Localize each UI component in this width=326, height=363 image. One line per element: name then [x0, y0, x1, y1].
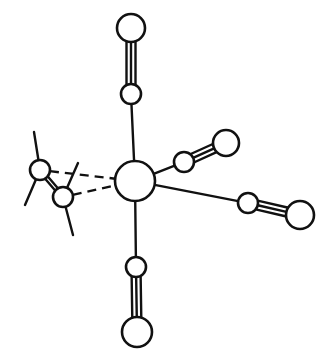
atoms-layer	[30, 14, 314, 347]
carbon-atom	[174, 152, 194, 172]
carbon-atom	[121, 84, 141, 104]
oxygen-atom	[122, 317, 152, 347]
oxygen-atom	[213, 130, 239, 156]
ethylene-carbon-atom	[30, 160, 50, 180]
carbon-oxygen-triple-bond	[141, 277, 142, 317]
ethylene-carbon-atom	[53, 187, 73, 207]
metal-carbon-bond	[135, 201, 136, 257]
metal-carbon-bond	[154, 166, 175, 174]
oxygen-atom	[117, 14, 145, 42]
carbon-oxygen-triple-bond	[191, 144, 212, 154]
metal-carbon-bond	[131, 104, 134, 161]
metal-ethylene-dashed-bond	[73, 185, 116, 194]
carbon-oxygen-triple-bond	[195, 152, 216, 162]
metal-ethylene-dashed-bond	[50, 171, 115, 179]
metal-atom	[115, 161, 155, 201]
carbon-atom	[238, 193, 258, 213]
oxygen-atom	[286, 201, 314, 229]
carbon-oxygen-triple-bond	[132, 277, 133, 317]
metal-carbon-bond	[155, 185, 239, 201]
molecular-diagram	[0, 0, 326, 363]
carbon-oxygen-triple-bond	[136, 277, 137, 317]
carbon-oxygen-triple-bond	[193, 148, 214, 158]
carbon-atom	[126, 257, 146, 277]
